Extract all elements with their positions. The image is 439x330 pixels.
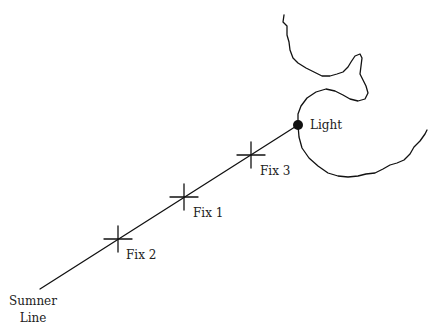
fix-3-label: Fix 3 — [260, 164, 290, 178]
sumner-label-line1: Sumner — [9, 294, 57, 308]
sumner-label-line2: Line — [20, 311, 47, 325]
light-marker-icon — [293, 120, 303, 130]
lower-coastline — [298, 125, 427, 177]
diagram-canvas: Fix 2 Fix 1 Fix 3 Light Sumner Line — [0, 0, 439, 330]
fix-2-label: Fix 2 — [126, 248, 156, 262]
upper-coastline — [283, 15, 368, 125]
light-label: Light — [310, 118, 342, 132]
fix-1-label: Fix 1 — [193, 206, 223, 220]
sumner-line — [40, 125, 298, 289]
